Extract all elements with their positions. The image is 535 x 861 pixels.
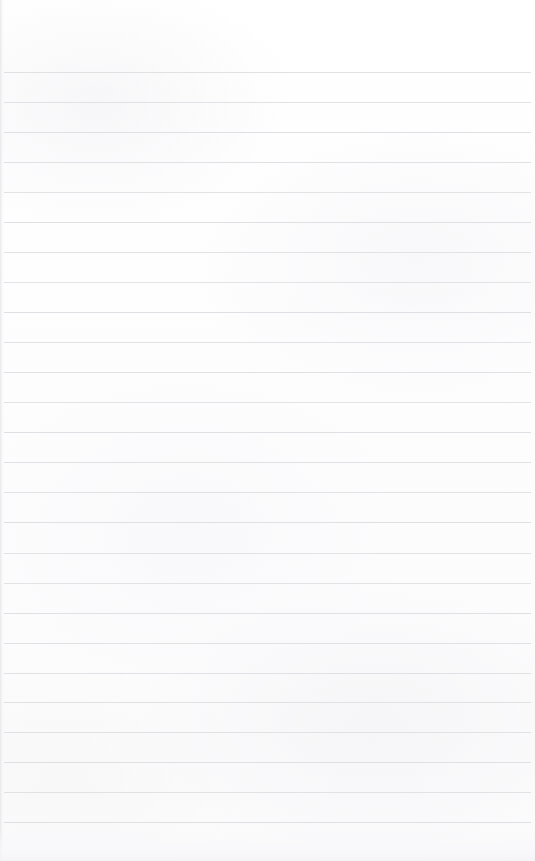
- rule-line: [4, 822, 531, 823]
- rule-line: [4, 192, 531, 193]
- rule-line: [4, 72, 531, 73]
- rule-line: [4, 312, 531, 313]
- rule-line: [4, 402, 531, 403]
- rule-line: [4, 492, 531, 493]
- rule-line: [4, 222, 531, 223]
- rule-line: [4, 762, 531, 763]
- notebook-page: [0, 0, 535, 861]
- rule-line: [4, 792, 531, 793]
- rule-line: [4, 702, 531, 703]
- rule-line: [4, 372, 531, 373]
- rule-line: [4, 342, 531, 343]
- rule-line: [4, 462, 531, 463]
- rule-line: [4, 132, 531, 133]
- rule-line: [4, 522, 531, 523]
- rule-line: [4, 162, 531, 163]
- rule-line: [4, 252, 531, 253]
- rule-line: [4, 102, 531, 103]
- rule-line: [4, 282, 531, 283]
- rule-line: [4, 613, 531, 614]
- rule-line: [4, 673, 531, 674]
- rule-line-group: [0, 0, 535, 861]
- rule-line: [4, 553, 531, 554]
- rule-line: [4, 583, 531, 584]
- rule-line: [4, 732, 531, 733]
- rule-line: [4, 643, 531, 644]
- rule-line: [4, 432, 531, 433]
